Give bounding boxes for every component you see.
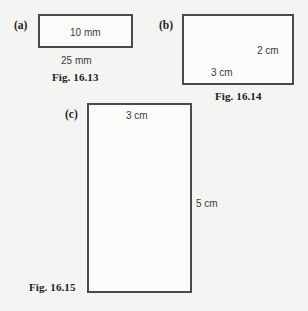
figure-caption-a: Fig. 16.13 xyxy=(52,71,99,83)
rectangle-c xyxy=(87,103,192,293)
part-label-a: (a) xyxy=(14,19,27,31)
part-label-c: (c) xyxy=(65,108,78,120)
figure-caption-b: Fig. 16.14 xyxy=(215,90,262,102)
dimension-c-width: 3 cm xyxy=(126,110,148,121)
figure-caption-c: Fig. 16.15 xyxy=(29,281,76,293)
figure-sheet: (a) 10 mm 25 mm Fig. 16.13 (b) 2 cm 3 cm… xyxy=(0,0,308,311)
dimension-b-height: 2 cm xyxy=(257,45,279,56)
dimension-c-height: 5 cm xyxy=(196,198,218,209)
dimension-a-height: 10 mm xyxy=(70,27,101,38)
dimension-a-width: 25 mm xyxy=(61,55,92,66)
dimension-b-width: 3 cm xyxy=(211,67,233,78)
part-label-b: (b) xyxy=(159,19,173,31)
